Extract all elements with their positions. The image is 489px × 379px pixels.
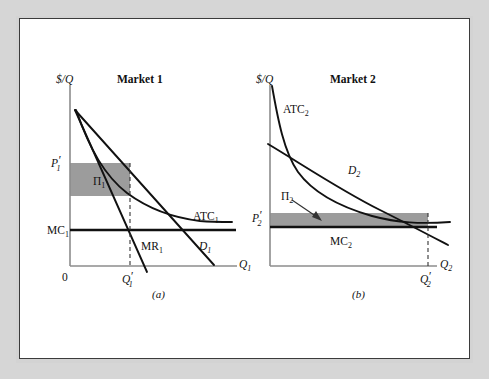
origin-label-1: 0	[62, 271, 68, 283]
mr-label-1: MR1	[141, 240, 163, 255]
demand-label-2: D2	[347, 164, 360, 179]
economics-diagram: $/Q Market 1 P′1 MC1 Π1 ATC1 MR1 D1 0 Q′…	[0, 0, 489, 379]
panel-market-1: $/Q Market 1 P′1 MC1 Π1 ATC1 MR1 D1 0 Q′…	[47, 73, 251, 301]
panel-caption-2: (b)	[352, 288, 365, 301]
mc-label-2: MC2	[330, 235, 352, 250]
x-axis-label-1: Q1	[239, 258, 251, 273]
profit-label-2: Π2	[281, 190, 293, 205]
quantity-label-1: Q′1	[122, 270, 133, 289]
mc-label-1: MC1	[47, 224, 69, 239]
demand-label-1: D1	[198, 240, 211, 255]
profit-rectangle-2	[270, 213, 428, 226]
y-axis-label-1: $/Q	[56, 73, 74, 85]
x-axis-label-2: Q2	[440, 258, 452, 273]
panel-caption-1: (a)	[152, 288, 165, 301]
panel-market-2: $/Q Market 2 ATC2 D2 Π2 P′2 MC2 Q′2 Q2 (…	[251, 73, 452, 301]
atc-label-1: ATC1	[193, 210, 219, 225]
quantity-label-2: Q′2	[420, 270, 431, 289]
price-label-2: P′2	[251, 209, 262, 228]
price-label-1: P′1	[50, 154, 61, 173]
figure-root: $/Q Market 1 P′1 MC1 Π1 ATC1 MR1 D1 0 Q′…	[0, 0, 489, 379]
y-axis-label-2: $/Q	[256, 73, 274, 85]
panel-title-2: Market 2	[330, 73, 376, 85]
curve-demand-2	[268, 144, 448, 245]
atc-label-2: ATC2	[283, 103, 309, 118]
panel-title-1: Market 1	[117, 73, 163, 85]
